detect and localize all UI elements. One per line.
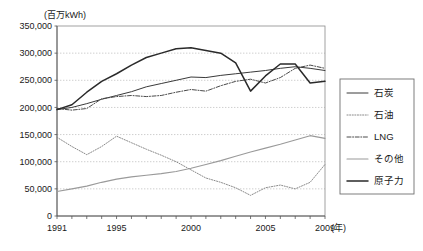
y-axis-tick-label: 0 xyxy=(47,211,52,221)
y-axis-ticks: 350,000300,000250,000200,000150,000100,0… xyxy=(19,21,57,221)
series-line-LNG xyxy=(57,65,325,110)
chart-container: (百万kWh) 350,000300,000250,000200,000150,… xyxy=(0,0,423,251)
x-axis-unit-label: (年) xyxy=(331,222,346,233)
legend-label: 石油 xyxy=(374,109,394,120)
y-axis-tick-label: 50,000 xyxy=(24,184,52,194)
y-axis-tick-label: 250,000 xyxy=(19,75,52,85)
legend-label: 石炭 xyxy=(374,87,394,98)
y-axis-tick-label: 350,000 xyxy=(19,21,52,31)
x-axis-tick-label: 2000 xyxy=(181,223,201,233)
y-axis-tick-label: 200,000 xyxy=(19,103,52,113)
x-axis-tick-label: 1995 xyxy=(107,223,127,233)
plot-frame xyxy=(57,26,325,216)
series-line-その他 xyxy=(57,136,325,192)
data-series-group xyxy=(57,48,325,196)
x-axis-ticks: 19911995200020052009(年) xyxy=(47,216,346,233)
x-axis-tick-label: 2005 xyxy=(255,223,275,233)
series-line-石油 xyxy=(57,136,325,195)
legend-label: その他 xyxy=(374,153,404,164)
y-axis-tick-label: 300,000 xyxy=(19,48,52,58)
series-line-石炭 xyxy=(57,67,325,110)
legend-label: LNG xyxy=(374,131,394,142)
y-axis-tick-label: 150,000 xyxy=(19,130,52,140)
chart-legend: 石炭石油LNGその他原子力 xyxy=(340,79,414,194)
x-axis-tick-label: 1991 xyxy=(47,223,67,233)
legend-label: 原子力 xyxy=(374,175,404,186)
line-chart: 350,000300,000250,000200,000150,000100,0… xyxy=(0,0,423,251)
y-axis-tick-label: 100,000 xyxy=(19,157,52,167)
